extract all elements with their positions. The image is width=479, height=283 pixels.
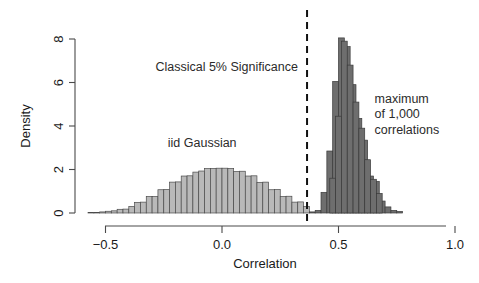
histogram-bar — [245, 176, 251, 213]
y-tick-label: 0 — [51, 209, 66, 216]
y-tick-label: 2 — [51, 166, 66, 173]
histogram-bar — [391, 210, 397, 213]
y-tick-label: 4 — [51, 122, 66, 129]
histogram-bar — [135, 202, 141, 213]
histogram-bar — [359, 128, 365, 213]
chart-annotations: Classical 5% Significanceiid Gaussianmax… — [155, 60, 439, 150]
histogram-bar — [117, 209, 123, 213]
y-tick-label: 6 — [51, 79, 66, 86]
histogram-bar — [234, 171, 240, 213]
histogram-bar — [341, 41, 347, 213]
histogram-bar — [286, 196, 292, 213]
histogram-bar — [347, 65, 353, 213]
histogram-bar — [152, 196, 158, 213]
histogram-bar — [315, 210, 321, 213]
histogram-bar — [336, 116, 342, 213]
correlation-histogram-figure: 02468 −0.50.00.51.0 Density Correlation … — [0, 0, 479, 283]
histogram-bar — [146, 196, 152, 213]
histogram-bar — [181, 176, 187, 213]
histogram-bar — [353, 102, 359, 213]
x-axis-title: Correlation — [233, 256, 297, 271]
histogram-bar — [205, 169, 211, 213]
maximum-label-line2: of 1,000 — [375, 107, 420, 121]
histogram-bar — [280, 196, 286, 213]
x-axis: −0.50.00.51.0 — [93, 226, 464, 252]
histogram-bar — [210, 168, 216, 213]
histogram-bar — [292, 202, 298, 213]
y-axis-title: Density — [18, 104, 33, 148]
histogram-bar — [371, 179, 377, 213]
x-tick-label: 1.0 — [446, 237, 464, 252]
histogram-bar — [365, 160, 371, 213]
histogram-bar — [193, 172, 199, 213]
histogram-bar — [257, 182, 263, 213]
series-iid-gaussian — [88, 168, 309, 213]
x-tick-label: 0.0 — [213, 237, 231, 252]
histogram-bar — [123, 209, 129, 213]
histogram-bar — [263, 182, 269, 213]
histogram-bar — [222, 168, 228, 213]
histogram-bar — [158, 190, 164, 213]
histogram-bar — [94, 212, 100, 213]
histogram-bar — [309, 212, 315, 213]
histogram-bar — [129, 206, 135, 213]
histogram-bar — [269, 190, 275, 213]
histogram-bar — [330, 178, 336, 213]
histogram-bar — [111, 211, 117, 213]
histogram-bar — [321, 192, 327, 213]
histogram-chart: 02468 −0.50.00.51.0 Density Correlation … — [0, 0, 479, 283]
histogram-bar — [199, 171, 205, 213]
histogram-bar — [187, 176, 193, 213]
histogram-bar — [228, 168, 234, 213]
x-tick-label: −0.5 — [93, 237, 119, 252]
histogram-bar — [140, 202, 146, 213]
significance-label: Classical 5% Significance — [155, 60, 297, 74]
y-tick-label: 8 — [51, 35, 66, 42]
iid-gaussian-label: iid Gaussian — [168, 136, 237, 150]
histogram-bar — [251, 176, 257, 213]
histogram-bar — [216, 168, 222, 213]
maximum-label-line1: maximum — [375, 92, 429, 106]
histogram-bar — [170, 182, 176, 213]
histogram-bar — [376, 193, 382, 213]
histogram-bar — [397, 211, 403, 213]
histogram-bar — [239, 171, 245, 213]
histogram-bar — [106, 211, 112, 213]
histogram-bar — [385, 207, 391, 213]
histogram-bar — [164, 190, 170, 213]
x-tick-label: 0.5 — [329, 237, 347, 252]
maximum-label-line3: correlations — [375, 123, 440, 137]
y-axis: 02468 — [51, 35, 76, 216]
histogram-bar — [175, 182, 181, 213]
histogram-bar — [274, 190, 280, 213]
histogram-bar — [298, 202, 304, 213]
histogram-bar — [100, 212, 106, 213]
